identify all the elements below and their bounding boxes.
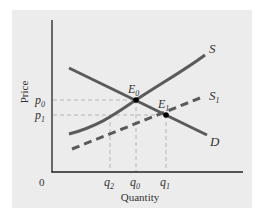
tick-q0: q0: [130, 175, 140, 191]
label-s: S: [209, 41, 216, 56]
label-e0: E0: [127, 82, 139, 98]
tick-p1: p1: [34, 108, 45, 124]
tick-q1: q1: [160, 175, 170, 191]
origin-label: 0: [39, 176, 45, 188]
x-axis-title: Quantity: [121, 191, 160, 203]
guide-lines: [53, 100, 166, 172]
equilibrium-point-e1: [163, 112, 169, 118]
tick-q2: q2: [104, 175, 114, 191]
label-e1: E1: [157, 97, 169, 113]
y-axis-title: Price: [18, 81, 30, 104]
label-d: D: [209, 134, 220, 149]
label-s1: S1: [209, 88, 220, 105]
tick-p0: p0: [34, 93, 45, 109]
equilibrium-point-e0: [133, 97, 139, 103]
supply-demand-chart: S S1 D E0 E1 p0 p1 q2 q0 q1 0 Quantity P…: [0, 0, 261, 221]
